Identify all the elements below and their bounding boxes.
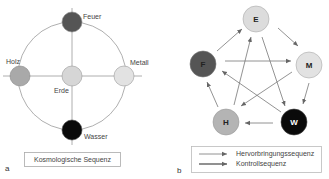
arrow-m-to-w <box>303 83 309 104</box>
arrow-w-to-f <box>222 71 281 112</box>
label-feuer: Feuer <box>83 13 102 20</box>
legend-generating-label: Hervorbringungssequenz <box>236 150 315 158</box>
node-feuer <box>62 12 82 32</box>
node-metall <box>114 66 134 86</box>
node-erde <box>62 66 82 86</box>
arrow-h-to-f <box>207 82 218 107</box>
five-elements-figure: Feuer Holz Erde Metall Wasser Kosmologis… <box>0 0 329 179</box>
panel-letter-a: a <box>5 164 10 173</box>
node-e-label: E <box>253 15 259 24</box>
node-f-label: F <box>201 60 206 69</box>
legend-control-label: Kontrollsequenz <box>236 160 287 168</box>
node-holz <box>10 66 30 86</box>
arrow-e-to-m <box>278 28 298 46</box>
label-metall: Metall <box>130 59 149 66</box>
node-w-label: W <box>290 118 298 127</box>
panel-a-cosmological-diagram: Feuer Holz Erde Metall Wasser Kosmologis… <box>3 8 149 173</box>
caption-kosmologische-sequenz: Kosmologische Sequenz <box>34 156 112 164</box>
arrow-e-to-w <box>262 37 285 106</box>
label-holz: Holz <box>6 58 21 65</box>
node-m-label: M <box>306 61 313 70</box>
label-wasser: Wasser <box>84 133 108 140</box>
arrow-m-to-h <box>241 72 292 106</box>
arrow-f-to-e <box>217 29 242 51</box>
node-h-label: H <box>223 118 229 127</box>
panel-letter-b: b <box>177 166 182 175</box>
label-erde: Erde <box>54 87 69 94</box>
panel-b-sequence-diagram: E M W H F Hervorbringungssequenz Kontrol… <box>177 6 322 175</box>
node-wasser <box>62 120 82 140</box>
arrow-h-to-e <box>234 37 251 105</box>
